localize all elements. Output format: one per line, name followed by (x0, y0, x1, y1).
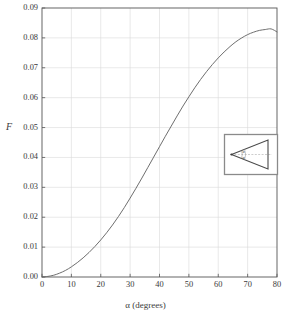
x-tick-label: 10 (61, 281, 81, 289)
x-tick-label: 60 (208, 281, 228, 289)
x-tick-label: 50 (179, 281, 199, 289)
x-tick-label: 30 (120, 281, 140, 289)
x-tick-label: 80 (267, 281, 287, 289)
x-tick-label: 70 (238, 281, 258, 289)
x-tick-label: 0 (32, 281, 52, 289)
x-axis-tick-labels: 01020304050607080 (0, 0, 291, 320)
x-tick-label: 40 (150, 281, 170, 289)
x-tick-label: 20 (91, 281, 111, 289)
